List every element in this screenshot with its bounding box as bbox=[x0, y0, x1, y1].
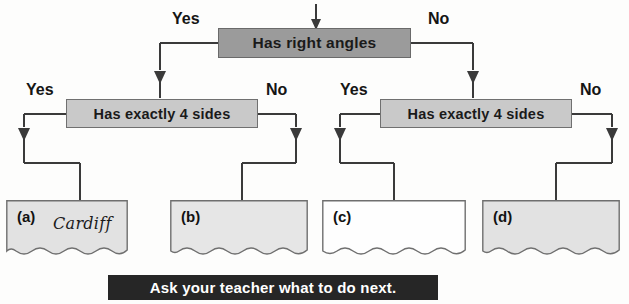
decision-label: Has right angles bbox=[253, 34, 377, 52]
edge-label-branch2-yes: Yes bbox=[340, 81, 368, 99]
answer-box-c[interactable]: (c) bbox=[322, 200, 466, 262]
answer-tag: (b) bbox=[181, 208, 200, 225]
decision-label: Has exactly 4 sides bbox=[94, 106, 231, 122]
edge-label-branch1-no: No bbox=[266, 81, 287, 99]
decision-branch2-has-exactly-4-sides[interactable]: Has exactly 4 sides bbox=[380, 99, 572, 128]
edge-label-root-no: No bbox=[428, 10, 449, 28]
instruction-banner: Ask your teacher what to do next. bbox=[108, 275, 438, 300]
answer-box-a[interactable]: (a) Cardiff bbox=[6, 200, 128, 262]
decision-branch1-has-exactly-4-sides[interactable]: Has exactly 4 sides bbox=[66, 99, 258, 128]
answer-tag: (c) bbox=[333, 208, 351, 225]
decision-has-right-angles[interactable]: Has right angles bbox=[218, 28, 411, 58]
decision-label: Has exactly 4 sides bbox=[408, 106, 545, 122]
edge-label-branch1-yes: Yes bbox=[26, 81, 54, 99]
answer-box-b[interactable]: (b) bbox=[170, 200, 308, 262]
edge-label-root-yes: Yes bbox=[172, 10, 200, 28]
answer-box-d[interactable]: (d) bbox=[482, 200, 620, 262]
answer-tag: (d) bbox=[493, 208, 512, 225]
flowchart-page: Has right angles Yes No Has exactly 4 si… bbox=[0, 0, 629, 304]
answer-tag: (a) bbox=[17, 208, 35, 225]
answer-handwritten-value: Cardiff bbox=[53, 214, 112, 233]
edge-label-branch2-no: No bbox=[580, 81, 601, 99]
instruction-banner-text: Ask your teacher what to do next. bbox=[150, 279, 397, 296]
